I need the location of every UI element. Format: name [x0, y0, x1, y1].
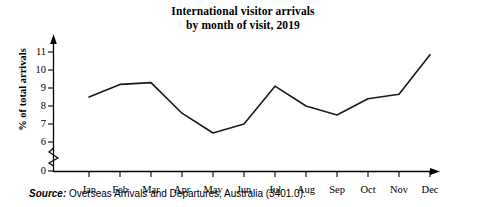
x-tick-label-dec: Dec [413, 184, 447, 195]
data-series-line [89, 55, 430, 133]
page-title: International visitor arrivals by month … [0, 4, 486, 32]
chart-title-line-2: by month of visit, 2019 [0, 18, 486, 32]
chart-plot-area: % of total arrivals 11 10 9 8 7 6 0 Jan … [0, 32, 486, 182]
x-axis-ticks [89, 172, 430, 178]
x-axis-arrow-icon [430, 168, 440, 175]
x-tick-label-nov: Nov [382, 184, 416, 195]
y-axis-arrow-icon [50, 34, 57, 44]
source-note: Source: Overseas Arrivals and Departures… [29, 188, 306, 200]
source-label: Source: [29, 188, 66, 199]
source-text: Overseas Arrivals and Departures, Austra… [66, 188, 306, 199]
x-tick-label-oct: Oct [351, 184, 385, 195]
x-tick-label-sep: Sep [320, 184, 354, 195]
chart-canvas [0, 32, 486, 184]
chart-title-line-1: International visitor arrivals [0, 4, 486, 18]
